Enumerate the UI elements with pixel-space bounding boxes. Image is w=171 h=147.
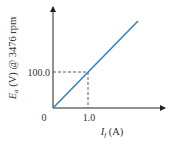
data-line — [53, 21, 138, 108]
y-tick-label: 100.0 — [28, 67, 51, 78]
x-axis-title: If (A) — [100, 126, 124, 139]
x-tick-label: 1.0 — [83, 112, 96, 123]
y-axis-title: Ea (V) @ 3476 rpm — [7, 17, 20, 101]
origin-label: 0 — [42, 112, 47, 123]
chart: 0 1.0 100.0 If (A) Ea (V) @ 3476 rpm — [0, 0, 171, 147]
